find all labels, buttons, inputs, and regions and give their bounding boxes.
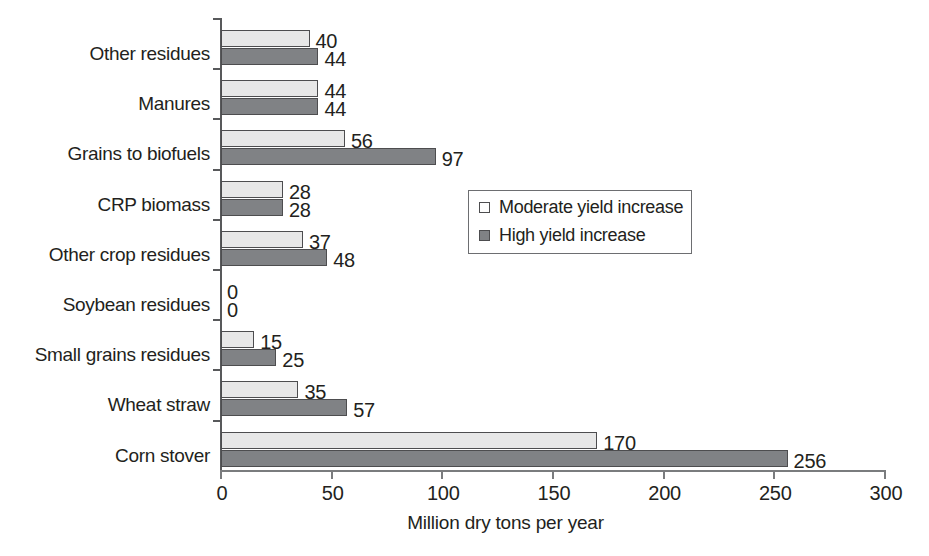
x-axis-tick-label: 200 [635, 481, 695, 505]
bar-value-label: 97 [442, 149, 464, 169]
y-axis-tick [213, 269, 221, 271]
legend-label-high: High yield increase [499, 225, 645, 245]
bar-value-label: 44 [324, 49, 346, 69]
bar-high[interactable] [221, 199, 283, 216]
bar-moderate[interactable] [221, 231, 303, 248]
category-label: Manures [0, 94, 210, 114]
x-axis-tick [220, 470, 222, 479]
bar-value-label: 57 [353, 400, 375, 420]
bar-high[interactable] [221, 249, 327, 266]
y-axis-tick [213, 18, 221, 20]
category-label: Other residues [0, 44, 210, 64]
chart-legend: Moderate yield increase High yield incre… [468, 190, 692, 254]
bar-high[interactable] [221, 349, 276, 366]
bar-value-label: 28 [289, 200, 311, 220]
bar-high[interactable] [221, 98, 318, 115]
bar-moderate[interactable] [221, 30, 310, 47]
category-label: Grains to biofuels [0, 144, 210, 164]
legend-label-moderate: Moderate yield increase [499, 197, 683, 217]
x-axis-tick [663, 470, 665, 479]
x-axis-tick-label: 300 [856, 481, 916, 505]
bar-value-label: 256 [794, 451, 826, 471]
legend-item-high[interactable]: High yield increase [479, 225, 645, 245]
category-label: Wheat straw [0, 395, 210, 415]
bar-value-label: 44 [324, 99, 346, 119]
x-axis-tick [552, 470, 554, 479]
category-label: Soybean residues [0, 295, 210, 315]
bar-value-label: 48 [333, 250, 355, 270]
x-axis-title: Million dry tons per year [0, 512, 929, 534]
y-axis-tick [213, 118, 221, 120]
bar-chart: 404444445697282837480015253557170256 050… [0, 0, 929, 556]
x-axis-title-text: Million dry tons per year [407, 512, 604, 534]
x-axis-tick-label: 150 [524, 481, 584, 505]
category-label: Corn stover [0, 446, 210, 466]
legend-swatch-moderate-icon [479, 202, 490, 213]
bar-moderate[interactable] [221, 432, 597, 449]
y-axis-tick [213, 68, 221, 70]
bar-value-label: 25 [282, 350, 304, 370]
bar-moderate[interactable] [221, 80, 318, 97]
category-label: Small grains residues [0, 345, 210, 365]
y-axis-tick [213, 169, 221, 171]
legend-item-moderate[interactable]: Moderate yield increase [479, 197, 683, 217]
x-axis-tick [331, 470, 333, 479]
y-axis-tick [213, 369, 221, 371]
y-axis-tick [213, 420, 221, 422]
x-axis-tick-label: 50 [303, 481, 363, 505]
bar-high[interactable] [221, 399, 347, 416]
legend-swatch-high-icon [479, 230, 490, 241]
x-axis-tick-label: 100 [413, 481, 473, 505]
x-axis-tick [441, 470, 443, 479]
x-axis-tick-label: 0 [192, 481, 252, 505]
category-label: CRP biomass [0, 195, 210, 215]
x-axis-tick [884, 470, 886, 479]
bar-moderate[interactable] [221, 181, 283, 198]
bar-moderate[interactable] [221, 130, 345, 147]
category-label: Other crop residues [0, 245, 210, 265]
bar-moderate[interactable] [221, 381, 298, 398]
bar-high[interactable] [221, 48, 318, 65]
y-axis-tick [213, 219, 221, 221]
bar-moderate[interactable] [221, 331, 254, 348]
bar-high[interactable] [221, 148, 436, 165]
x-axis-tick [773, 470, 775, 479]
bar-value-label: 0 [227, 300, 238, 320]
y-axis-tick [213, 319, 221, 321]
bar-high[interactable] [221, 450, 788, 467]
x-axis-tick-label: 250 [745, 481, 805, 505]
